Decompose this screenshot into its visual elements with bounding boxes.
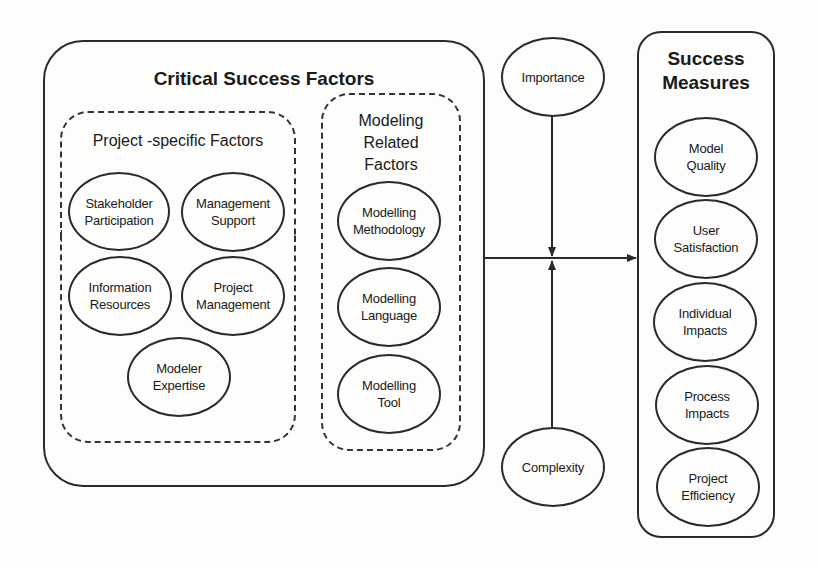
modeling-related-factors-title: Modeling Related Factors bbox=[321, 110, 461, 176]
factor-project-management: Project Management bbox=[181, 256, 285, 336]
moderator-importance: Importance bbox=[501, 37, 605, 117]
project-specific-factors-title: Project -specific Factors bbox=[60, 130, 296, 151]
success-measures-title: Success Measures bbox=[637, 47, 775, 95]
critical-success-factors-title: Critical Success Factors bbox=[43, 68, 485, 90]
measure-model-quality: Model Quality bbox=[654, 117, 758, 197]
factor-modelling-tool: Modelling Tool bbox=[337, 354, 441, 434]
factor-modelling-language: Modelling Language bbox=[337, 267, 441, 347]
measure-project-efficiency: Project Efficiency bbox=[656, 447, 760, 527]
measure-individual-impacts: Individual Impacts bbox=[653, 282, 757, 362]
factor-information-resources: Information Resources bbox=[68, 256, 172, 336]
factor-modelling-methodology: Modelling Methodology bbox=[337, 181, 441, 261]
factor-stakeholder-participation: Stakeholder Participation bbox=[68, 172, 170, 251]
factor-modeler-expertise: Modeler Expertise bbox=[127, 337, 231, 417]
measure-user-satisfaction: User Satisfaction bbox=[654, 199, 758, 279]
measure-process-impacts: Process Impacts bbox=[655, 365, 759, 445]
moderator-complexity: Complexity bbox=[501, 427, 605, 507]
factor-management-support: Management Support bbox=[181, 172, 285, 252]
